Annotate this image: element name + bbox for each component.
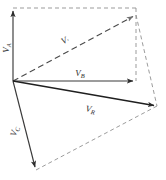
vector-diagram-figure: VA VB VC VR V' bbox=[0, 0, 166, 180]
vector-v-c bbox=[13, 81, 35, 167]
label-v-c: VC bbox=[8, 124, 21, 137]
label-v-r: VR bbox=[85, 103, 96, 115]
vector-v-r bbox=[13, 81, 154, 106]
label-v-b: VB bbox=[75, 68, 85, 79]
vector-labels: VA VB VC VR V' bbox=[1, 34, 96, 138]
label-v-prime: V' bbox=[59, 34, 71, 47]
vector-v-prime bbox=[13, 17, 133, 82]
construction-lines bbox=[13, 8, 157, 170]
vector-v-c-shaft bbox=[13, 81, 35, 167]
vector-diagram-canvas: VA VB VC VR V' bbox=[0, 0, 166, 180]
vector-v-r-shaft bbox=[13, 81, 154, 106]
construction-line-vc-tip-to-vr-tip bbox=[36, 106, 157, 170]
vector-v-prime-shaft bbox=[13, 17, 133, 82]
label-v-a: VA bbox=[1, 43, 12, 53]
construction-line-vprime-tip-to-vr-tip bbox=[136, 15, 157, 106]
